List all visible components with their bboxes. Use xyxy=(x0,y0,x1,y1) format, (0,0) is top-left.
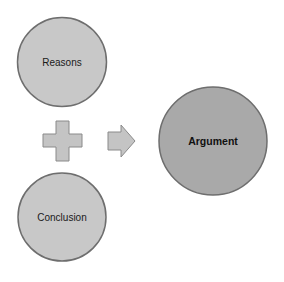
conclusion-node: Conclusion xyxy=(18,173,106,261)
plus-icon xyxy=(43,121,82,161)
reasons-label: Reasons xyxy=(42,57,81,68)
argument-node: Argument xyxy=(159,87,267,195)
reasons-node: Reasons xyxy=(18,18,107,107)
conclusion-label: Conclusion xyxy=(37,212,86,223)
argument-label: Argument xyxy=(188,135,238,147)
diagram-canvas: Reasons Conclusion Argument xyxy=(0,0,284,282)
arrow-right-icon xyxy=(108,125,135,157)
